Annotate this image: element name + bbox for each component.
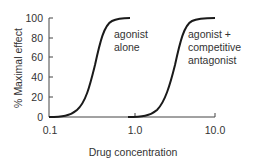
y-tick-label: 60 <box>31 51 43 63</box>
annotation-antagonist-line2: competitive <box>188 41 241 53</box>
y-axis-title: % Maximal effect <box>12 28 24 108</box>
annotation-antagonist-line3: antagonist <box>188 54 237 66</box>
dose-response-chart: 0 20 40 60 80 100 0.1 1.0 10.0 Drug conc… <box>0 0 253 166</box>
x-tick-label: 1.0 <box>128 124 143 136</box>
y-tick-label: 100 <box>25 12 43 24</box>
x-axis-title: Drug concentration <box>89 146 178 158</box>
y-tick-label: 0 <box>37 111 43 123</box>
x-tick-label: 0.1 <box>43 124 58 136</box>
y-tick-label: 20 <box>31 91 43 103</box>
y-tick-label: 80 <box>31 32 43 44</box>
annotation-antagonist-line1: agonist + <box>188 28 231 40</box>
annotation-agonist-alone-line1: agonist <box>114 28 148 40</box>
x-tick-label: 10.0 <box>205 124 226 136</box>
y-tick-label: 40 <box>31 71 43 83</box>
y-ticks <box>49 18 53 97</box>
annotation-agonist-alone-line2: alone <box>114 41 140 53</box>
